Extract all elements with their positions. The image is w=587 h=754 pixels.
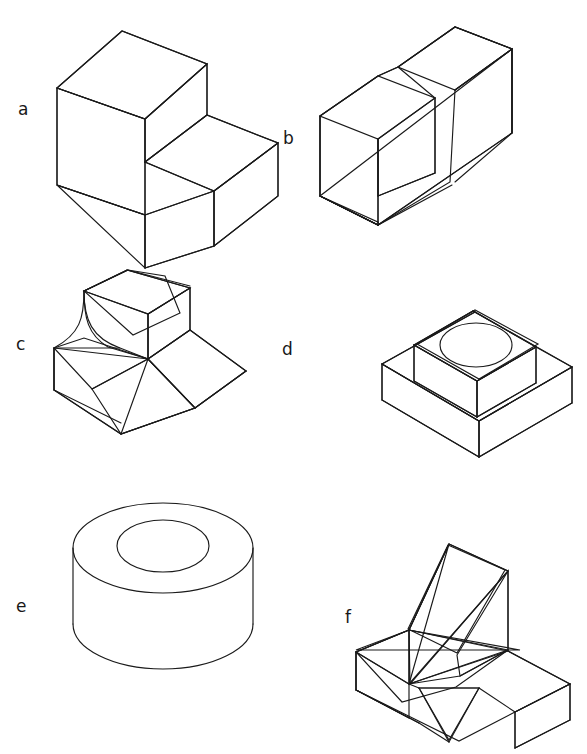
- figure-b-u-shaped-slotted-block[interactable]: [310, 20, 580, 235]
- figure-f-angled-rib-on-base-plate[interactable]: [350, 538, 578, 754]
- figure-e-hollow-cylinder-bushing[interactable]: [68, 498, 260, 670]
- clipped-header-text: [0, 0, 587, 1]
- figure-d-stepped-square-pedestal-with-hole[interactable]: [375, 302, 580, 462]
- figure-c-filleted-stepped-block-with-chamfer[interactable]: [45, 262, 255, 442]
- figure-label-d: d: [282, 341, 293, 358]
- worksheet-sheet: a b c d e f: [0, 0, 587, 754]
- figure-label-a: a: [18, 101, 29, 118]
- figure-label-c: c: [16, 336, 26, 353]
- figure-a-l-shaped-step-block[interactable]: [45, 25, 290, 280]
- figure-label-e: e: [16, 598, 27, 615]
